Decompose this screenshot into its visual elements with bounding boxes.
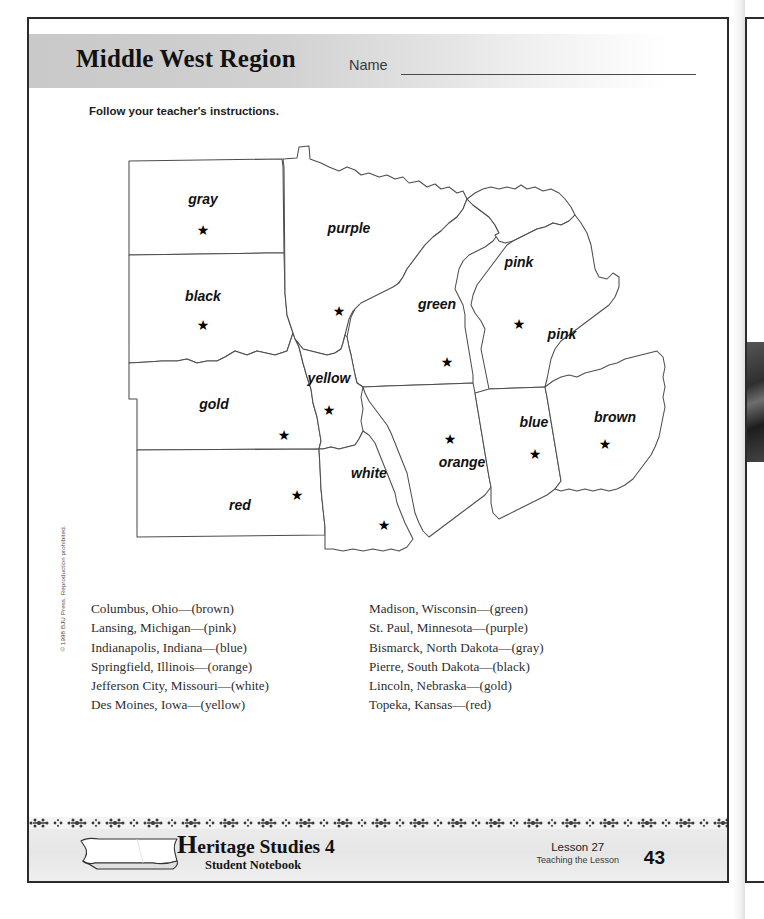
decorative-fleuron-border [29, 817, 727, 829]
book-gutter-shadow [733, 0, 745, 919]
state-label-missouri: white [351, 465, 387, 481]
capital-star-illinois: ★ [444, 431, 457, 447]
capital-entry: Madison, Wisconsin—(green) [369, 599, 647, 618]
capital-star-nebraska: ★ [278, 427, 291, 443]
capital-star-south-dakota: ★ [197, 317, 210, 333]
copyright-notice: © 1998 BJU Press. Reproduction prohibite… [59, 509, 66, 669]
capital-entry: St. Paul, Minnesota—(purple) [369, 618, 647, 637]
state-label-ohio: brown [594, 409, 636, 425]
brand-block: Heritage Studies 4 Student Notebook [177, 834, 335, 873]
capital-star-ohio: ★ [599, 436, 612, 452]
capital-entry: Pierre, South Dakota—(black) [369, 657, 647, 676]
name-label: Name [349, 57, 388, 73]
name-write-in-line[interactable] [401, 74, 696, 75]
state-label-wisconsin: green [417, 296, 456, 312]
capital-entry: Topeka, Kansas—(red) [369, 695, 647, 714]
capital-star-wisconsin: ★ [441, 354, 454, 370]
page-title: Middle West Region [76, 45, 296, 73]
capitals-right-column: Madison, Wisconsin—(green) St. Paul, Min… [369, 599, 647, 715]
page-number: 43 [644, 847, 665, 869]
capital-entry: Lincoln, Nebraska—(gold) [369, 676, 647, 695]
facing-page-sliver [745, 17, 764, 883]
brand-title-rest: eritage Studies 4 [197, 836, 335, 857]
capital-star-missouri: ★ [378, 517, 391, 533]
capital-entry: Des Moines, Iowa—(yellow) [91, 695, 369, 714]
map-svg: gray black gold red purple yellow white … [107, 137, 687, 567]
capital-star-north-dakota: ★ [197, 222, 210, 238]
capitals-left-column: Columbus, Ohio—(brown) Lansing, Michigan… [91, 599, 369, 715]
capital-entry: Indianapolis, Indiana—(blue) [91, 638, 369, 657]
brand-dropcap: H [177, 830, 197, 859]
capital-star-minnesota: ★ [333, 303, 346, 319]
state-label-iowa: yellow [307, 370, 352, 386]
capital-entry: Springfield, Illinois—(orange) [91, 657, 369, 676]
brand-subtitle: Student Notebook [205, 858, 335, 873]
capitals-legend: Columbus, Ohio—(brown) Lansing, Michigan… [91, 599, 681, 715]
state-label-illinois: orange [439, 454, 486, 470]
state-indiana[interactable] [475, 387, 561, 519]
capital-entry: Jefferson City, Missouri—(white) [91, 676, 369, 695]
worksheet-page-scan: Middle West Region Name Follow your teac… [0, 0, 764, 919]
capital-star-michigan: ★ [513, 316, 526, 332]
middle-west-map: gray black gold red purple yellow white … [107, 137, 687, 567]
state-label-south-dakota: black [185, 288, 222, 304]
capital-entry: Columbus, Ohio—(brown) [91, 599, 369, 618]
capital-star-iowa: ★ [323, 402, 336, 418]
state-label-north-dakota: gray [187, 191, 219, 207]
worksheet-page: Middle West Region Name Follow your teac… [27, 17, 729, 883]
instructions-text: Follow your teacher's instructions. [89, 105, 279, 117]
state-label-kansas: red [229, 497, 251, 513]
brand-title: Heritage Studies 4 [177, 834, 335, 857]
state-north-dakota[interactable] [129, 159, 284, 255]
facing-page-photo [747, 342, 764, 462]
state-label-upper-michigan: pink [504, 254, 535, 270]
state-label-michigan: pink [547, 326, 578, 342]
capital-entry: Lansing, Michigan—(pink) [91, 618, 369, 637]
state-south-dakota[interactable] [129, 253, 293, 363]
state-label-indiana: blue [520, 414, 549, 430]
capital-entry: Bismarck, North Dakota—(gray) [369, 638, 647, 657]
capital-star-kansas: ★ [291, 487, 304, 503]
page-footer: Heritage Studies 4 Student Notebook Less… [29, 817, 727, 881]
lesson-info: Lesson 27 Teaching the Lesson [536, 841, 619, 866]
state-label-minnesota: purple [327, 220, 371, 236]
state-label-nebraska: gold [198, 396, 229, 412]
lesson-section: Teaching the Lesson [536, 854, 619, 866]
capital-star-indiana: ★ [529, 446, 542, 462]
lesson-number: Lesson 27 [536, 841, 619, 854]
